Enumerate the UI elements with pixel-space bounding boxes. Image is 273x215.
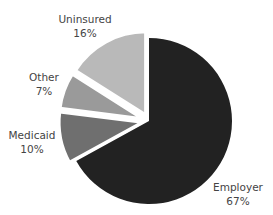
svg-text:Other: Other xyxy=(29,71,59,83)
svg-text:Employer: Employer xyxy=(213,181,264,193)
pie-chart: Uninsured 16% Other 7% Medicaid 10% Empl… xyxy=(0,0,273,215)
slice-label-employer: Employer 67% xyxy=(213,181,264,207)
slice-label-medicaid: Medicaid 10% xyxy=(9,129,56,155)
svg-text:10%: 10% xyxy=(20,143,43,155)
svg-text:16%: 16% xyxy=(73,27,96,39)
pie-slices xyxy=(59,32,232,204)
svg-text:Uninsured: Uninsured xyxy=(58,13,111,25)
svg-text:67%: 67% xyxy=(226,195,249,207)
svg-text:Medicaid: Medicaid xyxy=(9,129,56,141)
slice-label-uninsured: Uninsured 16% xyxy=(58,13,111,39)
slice-label-other: Other 7% xyxy=(29,71,59,97)
svg-text:7%: 7% xyxy=(36,85,53,97)
